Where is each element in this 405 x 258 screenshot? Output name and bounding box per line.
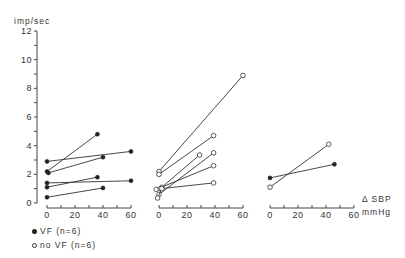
y-tick-label: 2 [26,169,32,179]
x-tick-label: 20 [181,210,192,220]
open-circle-marker [327,142,332,147]
legend-item-no-vf: no VF (n=6) [32,238,96,252]
filled-circle-marker [95,132,99,136]
open-circle-marker [157,172,162,177]
panel-1: 0204060 [44,132,136,220]
open-circle-icon [32,243,37,248]
data-series [45,186,105,199]
open-circle-marker [160,186,165,191]
filled-circle-icon [32,229,37,234]
x-axis-unit: mmHg [362,207,391,217]
filled-circle-marker [45,185,49,189]
x-tick-label: 20 [292,210,303,220]
y-tick-label: 8 [26,83,32,93]
data-series [160,153,202,190]
y-tick-label: 6 [26,112,32,122]
x-tick-label: 0 [44,210,50,220]
open-circle-marker [155,196,160,201]
legend: VF (n=6) no VF (n=6) [32,224,96,252]
filled-circle-marker [46,171,50,175]
legend-label-no-vf: no VF (n=6) [40,238,96,252]
panel-2: 0204060 [154,73,249,220]
data-series [158,181,216,191]
filled-circle-marker [101,155,105,159]
legend-label-vf: VF (n=6) [40,224,81,238]
chart-canvas: imp/sec 024681012 020406002040600204060 … [0,0,405,258]
x-tick-label: 60 [125,210,136,220]
y-axis-title: imp/sec [14,16,50,26]
open-circle-marker [211,151,216,156]
filled-circle-marker [332,162,336,166]
x-tick-label: 60 [348,210,359,220]
x-tick-label: 0 [267,210,273,220]
panels: 020406002040600204060 [44,73,359,220]
x-tick-label: 60 [237,210,248,220]
open-circle-marker [268,185,273,190]
filled-circle-marker [95,175,99,179]
data-series [45,179,133,185]
x-tick-label: 40 [320,210,331,220]
y-tick-label: 12 [21,26,32,36]
x-tick-label: 40 [209,210,220,220]
legend-item-vf: VF (n=6) [32,224,96,238]
filled-circle-marker [45,159,49,163]
open-circle-marker [211,133,216,138]
filled-circle-marker [268,176,272,180]
open-circle-marker [211,181,216,186]
filled-circle-marker [129,149,133,153]
data-series [268,162,336,180]
filled-circle-marker [45,181,49,185]
y-tick-label: 4 [26,141,32,151]
filled-circle-marker [129,179,133,183]
filled-circle-marker [101,186,105,190]
data-series [268,142,331,190]
panel-3: 0204060 [267,142,359,220]
data-series [45,132,99,173]
open-circle-marker [197,153,202,158]
open-circle-marker [241,73,246,78]
x-axis-title: Δ SBP [362,194,392,204]
x-tick-label: 0 [156,210,162,220]
data-series [157,73,246,174]
y-axis: 024681012 [21,26,37,208]
filled-circle-marker [45,195,49,199]
y-tick-label: 10 [21,55,32,65]
x-tick-label: 20 [69,210,80,220]
open-circle-marker [211,163,216,168]
data-series [157,151,216,197]
x-tick-label: 40 [97,210,108,220]
y-tick-label: 0 [26,198,32,208]
